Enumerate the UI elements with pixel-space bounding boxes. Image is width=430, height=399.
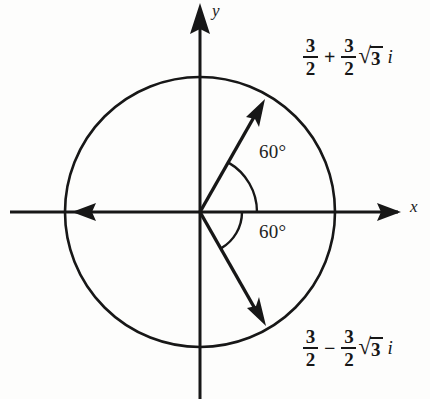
lower-coefficient-fraction: 3 2 xyxy=(341,327,356,370)
upper-coef-numerator: 3 xyxy=(342,36,356,56)
lower-imaginary-unit: i xyxy=(388,337,393,359)
lower-angle-arc xyxy=(221,212,242,248)
lower-real-fraction: 3 2 xyxy=(303,327,318,370)
upper-angle-arc xyxy=(229,163,258,212)
lower-complex-number-label: 3 2 − 3 2 √ 3 i xyxy=(302,327,393,370)
upper-real-numerator: 3 xyxy=(304,36,318,56)
lower-real-denominator: 2 xyxy=(304,349,318,369)
upper-real-denominator: 2 xyxy=(304,58,318,78)
upper-vector-shaft xyxy=(200,110,258,212)
upper-radicand: 3 xyxy=(370,46,383,69)
upper-radical: √ 3 xyxy=(358,46,382,69)
upper-operator: + xyxy=(324,46,335,69)
upper-coefficient-fraction: 3 2 xyxy=(341,36,356,79)
lower-vector-shaft xyxy=(200,212,258,314)
lower-angle-label: 60° xyxy=(259,222,287,241)
lower-radical: √ 3 xyxy=(358,337,382,360)
lower-coef-numerator: 3 xyxy=(342,327,356,347)
upper-real-fraction: 3 2 xyxy=(303,36,318,79)
upper-angle-label: 60° xyxy=(259,142,287,161)
lower-operator: − xyxy=(324,337,335,360)
upper-complex-number-label: 3 2 + 3 2 √ 3 i xyxy=(302,36,393,79)
lower-real-numerator: 3 xyxy=(304,327,318,347)
x-axis-label: x xyxy=(410,198,418,215)
y-axis-label: y xyxy=(212,2,220,19)
upper-coef-denominator: 2 xyxy=(342,58,356,78)
lower-radicand: 3 xyxy=(370,337,383,360)
lower-coef-denominator: 2 xyxy=(342,349,356,369)
complex-plane-figure: y x 60° 60° 3 2 + 3 2 √ 3 i 3 2 − 3 xyxy=(0,0,430,399)
upper-imaginary-unit: i xyxy=(388,46,393,68)
